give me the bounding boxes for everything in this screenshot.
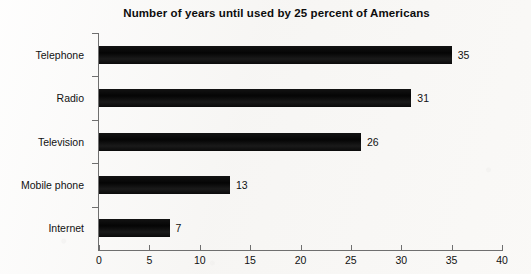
bar-value-internet: 7 xyxy=(176,222,182,234)
x-axis-tick-label: 35 xyxy=(446,254,458,266)
category-label-mobile-phone: Mobile phone xyxy=(0,179,92,191)
category-label-television: Television xyxy=(0,136,92,148)
chart-title: Number of years until used by 25 percent… xyxy=(0,7,531,19)
x-axis-tick-label: 20 xyxy=(295,254,307,266)
bar-telephone xyxy=(99,46,452,64)
x-axis-tick-label: 40 xyxy=(496,254,508,266)
y-axis-tick xyxy=(92,163,98,164)
y-axis-tick xyxy=(92,33,98,34)
x-axis-tick xyxy=(502,245,503,250)
x-axis-tick-label: 15 xyxy=(244,254,256,266)
x-axis-tick-label: 0 xyxy=(96,254,102,266)
bar-internet xyxy=(99,219,170,237)
x-axis-tick-label: 10 xyxy=(194,254,206,266)
bar-mobile-phone xyxy=(99,176,230,194)
bar-value-television: 26 xyxy=(367,136,379,148)
x-axis-tick xyxy=(99,245,100,250)
x-axis-tick-label: 25 xyxy=(345,254,357,266)
bar-value-telephone: 35 xyxy=(458,49,470,61)
x-axis-tick xyxy=(200,245,201,250)
x-axis-tick-label: 30 xyxy=(395,254,407,266)
x-axis-tick xyxy=(250,245,251,250)
bar-value-mobile-phone: 13 xyxy=(236,179,248,191)
bar-television xyxy=(99,133,361,151)
x-axis-tick xyxy=(401,245,402,250)
bar-value-radio: 31 xyxy=(417,92,429,104)
bar-chart-figure: Number of years until used by 25 percent… xyxy=(0,0,531,274)
category-label-radio: Radio xyxy=(0,92,92,104)
x-axis-tick xyxy=(301,245,302,250)
y-axis-tick xyxy=(92,120,98,121)
x-axis-tick-label: 5 xyxy=(146,254,152,266)
x-axis-line xyxy=(98,250,503,251)
x-axis-tick xyxy=(351,245,352,250)
category-label-internet: Internet xyxy=(0,222,92,234)
x-axis-tick xyxy=(149,245,150,250)
y-axis-tick xyxy=(92,76,98,77)
category-label-telephone: Telephone xyxy=(0,49,92,61)
bar-radio xyxy=(99,89,411,107)
y-axis-tick xyxy=(92,207,98,208)
x-axis-tick xyxy=(452,245,453,250)
